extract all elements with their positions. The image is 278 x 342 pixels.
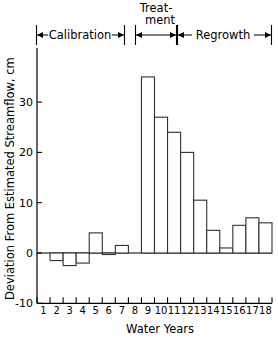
bar: [259, 223, 272, 253]
x-tick-label: 11: [168, 305, 181, 316]
bar: [168, 132, 181, 253]
phase-bracket-group: Calibration Treat- ment Regrowth: [37, 1, 272, 45]
x-tick-label: 18: [259, 305, 272, 316]
bar: [220, 248, 233, 253]
bar: [89, 233, 102, 253]
x-tick-label: 16: [233, 305, 246, 316]
x-tick-label: 7: [119, 305, 125, 316]
y-tick-label: 0: [26, 247, 33, 260]
y-axis-title: Deviation From Estimated Streamflow, cm: [3, 57, 17, 300]
bar: [155, 117, 168, 253]
x-tick-label: 13: [194, 305, 207, 316]
x-tick-label: 5: [93, 305, 99, 316]
y-tick-label: 20: [19, 146, 33, 159]
regrowth-label: Regrowth: [196, 28, 251, 42]
bar: [50, 253, 63, 261]
bar: [233, 225, 246, 253]
calibration-bracket: Calibration: [37, 25, 125, 45]
regrowth-bracket: Regrowth: [178, 25, 272, 45]
x-tick-label: 8: [132, 305, 138, 316]
chart-canvas: Deviation From Estimated Streamflow, cm …: [0, 0, 278, 342]
deviation-streamflow-bar-chart: Deviation From Estimated Streamflow, cm …: [0, 0, 278, 342]
x-tick-label: 3: [66, 305, 72, 316]
bar: [194, 200, 207, 253]
bar: [207, 230, 220, 253]
y-tick-label: -10: [15, 297, 33, 310]
bar: [63, 253, 76, 266]
y-tick-label: 30: [19, 96, 33, 109]
bar: [181, 152, 194, 253]
bar: [115, 245, 128, 253]
bar: [141, 77, 154, 253]
treatment-bracket: Treat- ment: [136, 1, 177, 45]
x-axis-title: Water Years: [126, 322, 194, 336]
bar: [102, 253, 115, 255]
x-tick-label: 6: [106, 305, 112, 316]
x-tick-label: 12: [181, 305, 194, 316]
y-tick-label: 10: [19, 197, 33, 210]
x-tick-label: 2: [53, 305, 59, 316]
bar: [76, 253, 89, 263]
bar: [246, 218, 259, 253]
x-tick-label: 9: [145, 305, 151, 316]
x-tick-label: 14: [207, 305, 220, 316]
x-tick-label: 15: [220, 305, 233, 316]
x-tick-label: 10: [155, 305, 168, 316]
calibration-label: Calibration: [49, 28, 112, 42]
treatment-label-line2: ment: [145, 13, 176, 27]
x-tick-label: 1: [40, 305, 46, 316]
x-tick-label: 17: [246, 305, 259, 316]
x-tick-label: 4: [80, 305, 86, 316]
plot-area: -100102030123456789101112131415161718: [15, 48, 272, 316]
